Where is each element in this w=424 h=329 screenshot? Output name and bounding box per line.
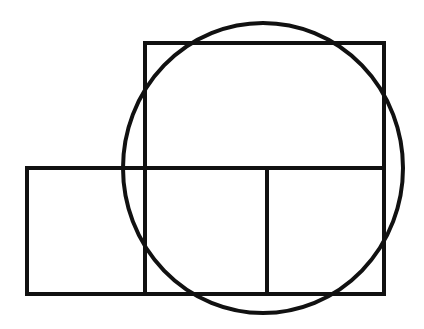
geometry-diagram bbox=[0, 0, 424, 329]
upper-rectangle bbox=[145, 43, 384, 168]
lower-rectangle bbox=[27, 168, 384, 294]
